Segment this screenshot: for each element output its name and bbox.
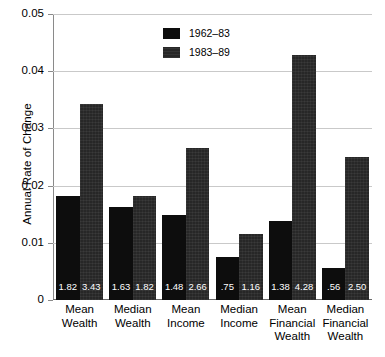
bar: 1.38	[269, 221, 293, 300]
bar: 1.82	[133, 196, 157, 300]
y-axis-title: Annual Rate of Change	[21, 64, 33, 264]
bar-value-label: 2.66	[186, 282, 210, 292]
bar: .56	[322, 268, 346, 300]
bar-value-label: 1.16	[239, 282, 263, 292]
y-tick-label: 0.02	[0, 180, 44, 192]
bar: 2.66	[186, 148, 210, 300]
bar-value-label: .75	[216, 282, 240, 292]
y-axis-line	[53, 14, 54, 300]
bar-value-label: 3.43	[80, 282, 104, 292]
legend: 1962–831983–89	[163, 26, 230, 64]
legend-swatch-icon	[163, 47, 180, 58]
bar-value-label: 1.82	[56, 282, 80, 292]
bar: 3.43	[80, 104, 104, 300]
y-tick-label: 0.01	[0, 237, 44, 249]
bar: 1.16	[239, 234, 263, 300]
bar-group: .562.50	[322, 14, 369, 300]
bar-value-label: 1.82	[133, 282, 157, 292]
category-label: Median Financial Wealth	[313, 303, 378, 344]
legend-swatch-icon	[163, 28, 180, 39]
bar-value-label: .56	[322, 282, 346, 292]
bar-group: 1.631.82	[109, 14, 156, 300]
bar-value-label: 1.38	[269, 282, 293, 292]
bar-chart: Annual Rate of Change 1.823.431.631.821.…	[0, 0, 385, 357]
bar: 4.28	[292, 55, 316, 300]
y-tick-mark	[48, 186, 53, 187]
y-tick-mark	[48, 128, 53, 129]
bar-value-label: 1.48	[162, 282, 186, 292]
legend-item: 1962–83	[163, 26, 230, 41]
bar-value-label: 4.28	[292, 282, 316, 292]
y-tick-mark	[48, 300, 53, 301]
y-tick-mark	[48, 71, 53, 72]
bar: 1.63	[109, 207, 133, 300]
bar: 2.50	[345, 157, 369, 300]
legend-label: 1983–89	[189, 47, 230, 58]
bar-value-label: 2.50	[345, 282, 369, 292]
y-tick-label: 0.04	[0, 65, 44, 77]
bar: 1.48	[162, 215, 186, 300]
legend-item: 1983–89	[163, 45, 230, 60]
bar-group: 1.384.28	[269, 14, 316, 300]
y-tick-mark	[48, 243, 53, 244]
bar-group: 1.823.43	[56, 14, 103, 300]
y-tick-label: 0	[0, 294, 44, 306]
y-tick-label: 0.03	[0, 123, 44, 135]
legend-label: 1962–83	[189, 28, 230, 39]
y-tick-mark	[48, 14, 53, 15]
bar: .75	[216, 257, 240, 300]
bar-value-label: 1.63	[109, 282, 133, 292]
y-tick-label: 0.05	[0, 8, 44, 20]
bar: 1.82	[56, 196, 80, 300]
